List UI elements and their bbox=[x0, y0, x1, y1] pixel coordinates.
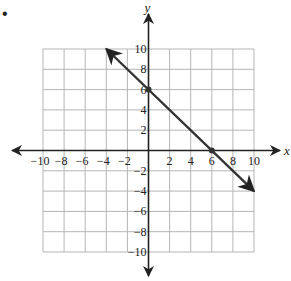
problem-bullet: • bbox=[2, 5, 8, 22]
x-tick-label: 6 bbox=[209, 154, 215, 168]
y-tick-label: 2 bbox=[141, 123, 147, 137]
y-tick-label: 8 bbox=[141, 62, 147, 76]
data-line bbox=[106, 49, 254, 191]
y-tick-label: −6 bbox=[134, 204, 147, 218]
x-tick-label: 2 bbox=[167, 154, 173, 168]
y-tick-label: 10 bbox=[135, 42, 147, 56]
y-tick-label: −4 bbox=[134, 184, 147, 198]
y-tick-label: 4 bbox=[141, 103, 147, 117]
x-tick-label: −4 bbox=[97, 154, 110, 168]
y-tick-label: −10 bbox=[128, 245, 147, 259]
y-tick-label: −8 bbox=[134, 225, 147, 239]
x-tick-label: 8 bbox=[230, 154, 236, 168]
x-tick-label: −8 bbox=[55, 154, 68, 168]
coordinate-plane: • −10−8−6−4−2246810108642−2−4−6−8−10 x y bbox=[0, 0, 291, 281]
x-tick-label: 4 bbox=[188, 154, 194, 168]
x-tick-label: −2 bbox=[118, 154, 131, 168]
intercept-point bbox=[209, 148, 215, 154]
intercept-point bbox=[146, 87, 152, 93]
x-axis-label: x bbox=[283, 143, 290, 158]
series-line bbox=[106, 49, 254, 191]
x-tick-label: −10 bbox=[31, 154, 50, 168]
x-tick-label: −6 bbox=[76, 154, 89, 168]
x-tick-label: 10 bbox=[248, 154, 260, 168]
y-tick-label: −2 bbox=[134, 164, 147, 178]
y-axis-label: y bbox=[143, 0, 151, 15]
